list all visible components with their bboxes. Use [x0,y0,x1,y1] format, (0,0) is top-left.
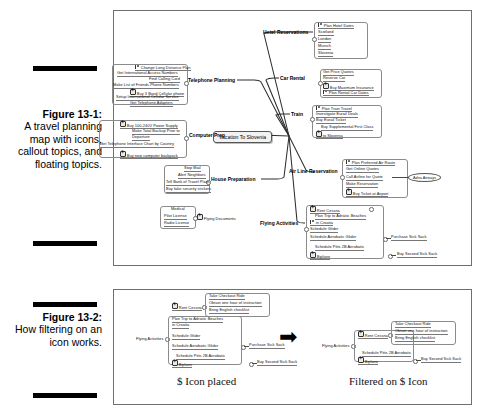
subtopic-car-1[interactable]: Reserve Car [323,76,345,82]
left-panel-label: $ Icon placed [177,375,236,387]
dollar-icon [172,360,178,366]
caption2-rule-top [33,302,97,307]
right-cessna-child-0[interactable]: Take Checkout Ride [395,322,431,328]
dollar-icon [346,189,352,195]
subtopic-phone-3[interactable]: Make List of Friends Phone Numbers [113,83,179,89]
right-subtopic-2[interactable]: Biplane [358,357,378,365]
figure-1-caption-text: A travel planning map with icons, callou… [6,120,102,170]
subtopic-hotel-1[interactable]: Scotland [318,30,334,36]
dollar-icon [197,214,203,220]
branch-label-telephone-planning[interactable]: Telephone Planning [188,77,235,83]
dollar-icon [358,331,364,337]
branch-label-house-preparation[interactable]: House Preparation [211,176,255,182]
branch-dot-train[interactable] [310,117,315,122]
branch-dot-car[interactable] [318,81,323,86]
figure-13-2: Figure 13-2: How filtering on an icon wo… [0,280,477,414]
right-callout-buy-second-sick-sack[interactable]: Buy Second Sick Sack [421,357,461,363]
subtopic-hotel-2[interactable]: London [318,37,331,43]
left-cessna-child-2[interactable]: Bring English checklist [209,308,249,314]
figure-2-caption-text: How filtering on an icon works. [6,323,102,348]
subtopic-air-1[interactable]: Get Online Quotes [346,167,379,173]
right-subtopic-0[interactable]: Rent Cessna [358,331,388,339]
branch-label-car-rental[interactable]: Car Rental [280,75,305,81]
right-subtopic-1[interactable]: Schedule Pitts 2B Aerobatic [362,351,411,357]
left-subtopic-2[interactable]: in Croatia [172,323,189,329]
dollar-icon [323,83,329,89]
dollar-icon [310,252,316,258]
branch-dot-flying[interactable] [304,227,309,232]
branch-label-computer-prep[interactable]: Computer Prep [189,132,225,138]
left-cessna-child-1[interactable]: Obtain one hour of instruction [209,301,262,307]
subtopic-flying-6[interactable]: Biplane [310,252,330,260]
subtopic-air-2[interactable]: Call Airline for Quote [346,175,383,181]
mindmap-canvas-2[interactable]: Flying Activities Rent Cessna Plan Trip … [113,289,472,405]
subtopic-house-0[interactable]: Stop Mail [184,166,201,172]
figure-1-number: Figure 13-1: [6,108,102,120]
subtopic-house-2[interactable]: Tell Bank of Travel Plans [166,180,210,186]
subtopic-flying-4[interactable]: Schedule Aerobatic Glider [310,235,356,241]
subtopic-air-4[interactable]: Buy Ticket at Airport [346,189,388,197]
callout-buy-second-sick-sack[interactable]: Buy Second Sick Sack [397,252,437,258]
branch-dot-hotel[interactable] [312,37,317,42]
callout-dot-flying-a[interactable] [369,207,374,212]
left-subtopic-5[interactable]: Schedule Pitts 2B Aerobatic [176,354,225,360]
left-callout-buy-second-sick-sack[interactable]: Buy Second Sick Sack [257,360,297,366]
subtopic-docs-0[interactable]: Medical [171,207,185,212]
subtopic-train-4[interactable]: to Slovenia [316,131,343,139]
left-subtopic-6[interactable]: Biplane [172,360,192,368]
mindmap-canvas-1[interactable]: Vacation To Slovenia Hotel Reservations … [113,10,472,266]
flag-icon [310,220,315,224]
figure-2-number: Figure 13-2: [6,311,102,323]
floating-topic-flying-documents[interactable]: Flying Documents [197,214,236,221]
subtopic-air-3[interactable]: Make Reservation [346,182,378,188]
branch-label-train[interactable]: Train [291,111,303,117]
caption-rule-bottom [33,241,97,246]
dollar-icon [310,206,316,212]
branch-dot-air[interactable] [340,175,345,180]
subtopic-computer-4[interactable]: Buy new computer backpack [120,151,178,159]
subtopic-train-2[interactable]: Buy Eurail Ticket [316,118,346,124]
left-subtopic-4[interactable]: Schedule Aerobatic Glider [172,344,218,350]
dollar-icon [316,131,322,137]
subtopic-phone-6[interactable]: Get Telephone Adapters [130,101,173,107]
dollar-icon [358,357,364,363]
branch-dot-computer[interactable] [184,136,189,141]
left-subtopic-3[interactable]: Schedule Glider [172,334,200,340]
subtopic-house-3[interactable]: Buy fake security stickers [166,187,211,193]
subtopic-flying-3[interactable]: Schedule Glider [310,227,338,233]
figure-2-caption: Figure 13-2: How filtering on an icon wo… [6,311,102,348]
left-subtopic-0[interactable]: Rent Cessna [172,303,202,311]
dollar-icon [120,121,126,127]
branch-label-flying-activities[interactable]: Flying Activities [260,220,298,226]
flag-icon [346,160,351,164]
right-panel-label: Filtered on $ Icon [349,375,428,387]
figure-13-1: Figure 13-1: A travel planning map with … [0,0,477,280]
flag-icon [323,90,328,94]
arrow-icon: ➡ [279,326,297,348]
subtopic-docs-2[interactable]: Radio License [164,221,189,227]
subtopic-flying-5[interactable]: Schedule Pitts 2B Aerobatic [315,245,364,251]
flag-icon [318,23,323,27]
right-cessna-child-1[interactable]: Obtain one hour of instruction [395,329,448,335]
right-cessna-child-2[interactable]: Bring English checklist [395,336,435,342]
right-root-flying-activities[interactable]: Flying Activities [322,344,349,349]
callout-purchase-sick-sack[interactable]: Purchase Sick Sack [391,235,427,241]
left-root-flying-activities[interactable]: Flying Activities [136,337,163,342]
subtopic-computer-2[interactable]: Departure [132,135,150,141]
callout-line-second-sick-sack [391,255,396,256]
subtopic-hotel-4[interactable]: Slovenia [318,51,333,57]
subtopic-hotel-3[interactable]: Munich [318,44,331,50]
branch-dot-phone[interactable] [184,81,189,86]
dollar-icon [120,151,126,157]
subtopic-train-3[interactable]: Buy Supplemental First Class [321,125,373,131]
subtopic-car-3[interactable]: Plan Rental Car Dates [323,90,369,96]
left-cessna-child-0[interactable]: Take Checkout Ride [209,294,245,300]
subtopic-docs-1[interactable]: Pilot License [164,214,187,220]
subtopic-computer-3[interactable]: Get Telephone Interface Chart by Country [100,142,174,148]
callout-adria-airways[interactable]: Adria Airways [408,173,441,182]
flag-icon [316,106,321,110]
subtopic-house-1[interactable]: Alert Neighbors [178,173,206,179]
caption-rule-top [33,66,97,71]
branch-label-hotel-reservations[interactable]: Hotel Reservations [263,29,308,35]
branch-label-air-line-reservation[interactable]: Air Line Reservation [289,168,338,174]
